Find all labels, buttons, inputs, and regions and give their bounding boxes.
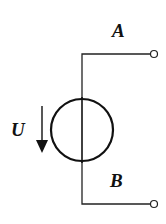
- wire-top: [82, 54, 151, 98]
- terminal-a-label: A: [112, 21, 125, 40]
- voltage-source-diagram: A B U: [0, 0, 166, 224]
- terminal-b-icon: [151, 201, 158, 208]
- voltage-label: U: [11, 120, 25, 139]
- terminal-a-icon: [151, 51, 158, 58]
- terminal-b-label: B: [110, 171, 123, 190]
- arrow-down-icon: [36, 140, 48, 153]
- circuit-drawing: [0, 0, 166, 224]
